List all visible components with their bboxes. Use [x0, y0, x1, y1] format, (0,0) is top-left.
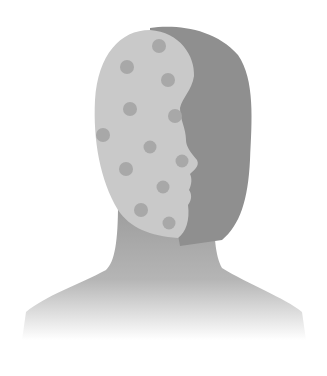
head-silhouette-figure: [0, 0, 327, 376]
illustration: [0, 0, 327, 376]
